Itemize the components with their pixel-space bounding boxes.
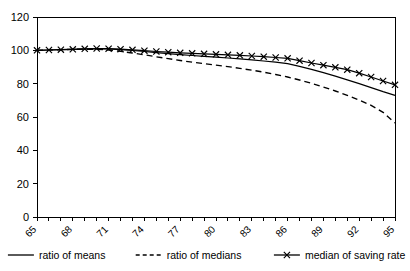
plot-axes [37, 17, 395, 217]
data-point-marker [368, 74, 374, 80]
series-ratio-of-medians [37, 49, 395, 123]
x-axis-tick-label: 80 [202, 223, 218, 239]
legend-item-median-of-saving-rate: median of saving rate [274, 249, 406, 261]
x-axis-tick-label: 95 [381, 223, 397, 239]
x-axis-tick-label: 71 [94, 223, 110, 239]
series-line [37, 49, 395, 96]
x-axis-tick-marks [37, 217, 395, 221]
y-axis-tick-label: 60 [17, 111, 29, 123]
y-axis-tick-label: 100 [11, 44, 29, 56]
legend-item-ratio-of-means: ratio of means [8, 249, 106, 261]
x-axis-tick-label: 65 [23, 223, 39, 239]
series-median-of-saving-rate [34, 45, 398, 88]
legend-item-ratio-of-medians: ratio of medians [136, 249, 242, 261]
chart-legend: ratio of meansratio of mediansmedian of … [8, 249, 406, 261]
series-ratio-of-means [37, 49, 395, 96]
y-axis-tick-marks [33, 17, 37, 217]
legend-label: median of saving rate [305, 249, 406, 261]
data-series-layer [34, 45, 398, 123]
y-axis-tick-label: 40 [17, 144, 29, 156]
data-point-marker [380, 78, 386, 84]
y-axis-tick-label: 0 [23, 211, 29, 223]
chart-container: 020406080100120 6568717477808386899295 r… [0, 0, 410, 271]
x-axis-tick-label: 92 [345, 223, 361, 239]
series-line [37, 49, 395, 123]
x-axis-tick-labels: 6568717477808386899295 [23, 223, 397, 239]
x-axis-tick-label: 86 [273, 223, 289, 239]
line-chart: 020406080100120 6568717477808386899295 r… [0, 0, 410, 271]
x-axis-tick-label: 89 [309, 223, 325, 239]
data-point-marker [356, 70, 362, 76]
x-axis-tick-label: 68 [59, 223, 75, 239]
y-axis-tick-label: 80 [17, 78, 29, 90]
y-axis-tick-labels: 020406080100120 [11, 11, 29, 223]
y-axis-tick-label: 20 [17, 178, 29, 190]
x-axis-tick-label: 77 [166, 223, 182, 239]
x-axis-tick-label: 83 [238, 223, 254, 239]
x-axis-tick-label: 74 [130, 223, 146, 239]
legend-label: ratio of medians [167, 249, 242, 261]
y-axis-tick-label: 120 [11, 11, 29, 23]
legend-label: ratio of means [39, 249, 106, 261]
